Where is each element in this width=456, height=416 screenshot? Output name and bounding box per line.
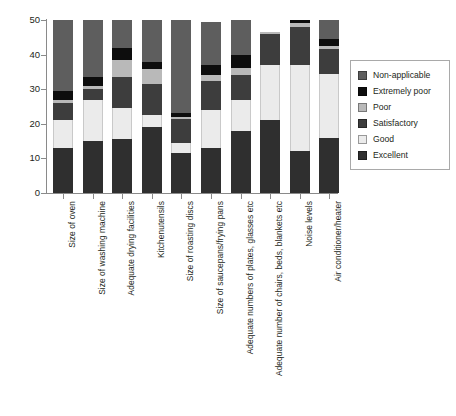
bar[interactable] xyxy=(231,20,251,193)
y-axis-tick-labels: 01020304050 xyxy=(0,0,40,200)
x-axis-label-wrapper: Size of roasting discs xyxy=(185,201,195,281)
bar-segment[interactable] xyxy=(201,65,221,75)
bar-segment[interactable] xyxy=(142,69,162,84)
bar-segment[interactable] xyxy=(201,110,221,148)
x-axis-tick xyxy=(241,194,242,199)
bar-segment[interactable] xyxy=(53,103,73,120)
legend-swatch-icon xyxy=(358,119,367,128)
bar-segment[interactable] xyxy=(171,20,191,113)
bar[interactable] xyxy=(201,20,221,193)
bar[interactable] xyxy=(142,20,162,193)
bar[interactable] xyxy=(319,20,339,193)
legend-item-label: Non-applicable xyxy=(373,71,430,80)
bar-segment[interactable] xyxy=(53,91,73,100)
x-axis-tick xyxy=(122,194,123,199)
bar[interactable] xyxy=(290,20,310,193)
bar-segment[interactable] xyxy=(319,49,339,73)
bar-segment[interactable] xyxy=(260,34,280,65)
bar-segment[interactable] xyxy=(231,20,251,55)
bar-segment[interactable] xyxy=(171,119,191,143)
legend-item-label: Extremely poor xyxy=(373,87,431,96)
bar[interactable] xyxy=(171,20,191,193)
y-axis-tick xyxy=(41,124,46,125)
x-axis-tick-label: Adequate number of chairs, beds, blanket… xyxy=(274,201,284,376)
bar[interactable] xyxy=(112,20,132,193)
bar-segment[interactable] xyxy=(319,138,339,193)
x-axis-label-wrapper: Noise levels xyxy=(304,201,314,247)
x-axis-label-wrapper: Size of washing machine xyxy=(97,201,107,295)
bar-segment[interactable] xyxy=(201,81,221,110)
x-axis-tick-label: Size of saucepans/frying pans xyxy=(215,201,225,314)
bar-segment[interactable] xyxy=(290,27,310,65)
bar-segment[interactable] xyxy=(171,143,191,153)
bar-segment[interactable] xyxy=(112,108,132,139)
chart-root: 01020304050 Size of ovenSize of washing … xyxy=(0,0,456,416)
x-axis-tick xyxy=(93,194,94,199)
x-axis-label-wrapper: Adequate numbers of plates, glasses etc xyxy=(245,201,255,354)
bar-segment[interactable] xyxy=(112,60,132,77)
bar-segment[interactable] xyxy=(142,62,162,69)
bar-segment[interactable] xyxy=(142,84,162,115)
bar-segment[interactable] xyxy=(231,68,251,75)
bar-segment[interactable] xyxy=(231,75,251,99)
bar-segment[interactable] xyxy=(201,22,221,65)
bar-segment[interactable] xyxy=(53,20,73,91)
y-axis-tick-label: 10 xyxy=(2,153,40,163)
bar-segment[interactable] xyxy=(319,39,339,46)
legend-item[interactable]: Extremely poor xyxy=(358,84,443,98)
bar-segment[interactable] xyxy=(231,55,251,69)
x-axis-tick xyxy=(300,194,301,199)
legend-item-label: Good xyxy=(373,135,394,144)
bar-segment[interactable] xyxy=(83,20,103,77)
bar-segment[interactable] xyxy=(112,139,132,193)
bar-segment[interactable] xyxy=(112,77,132,108)
bar[interactable] xyxy=(83,20,103,193)
bar-segment[interactable] xyxy=(53,148,73,193)
x-axis-tick xyxy=(152,194,153,199)
bar-segment[interactable] xyxy=(112,48,132,60)
bar-segment[interactable] xyxy=(83,100,103,142)
bar-segment[interactable] xyxy=(260,120,280,193)
legend-swatch-icon xyxy=(358,135,367,144)
x-axis-label-wrapper: Size of saucepans/frying pans xyxy=(215,201,225,314)
legend-item[interactable]: Excellent xyxy=(358,148,443,162)
bar-segment[interactable] xyxy=(201,148,221,193)
x-axis-label-wrapper: Adequate drying facilities xyxy=(126,201,136,295)
bar[interactable] xyxy=(53,20,73,193)
bar-segment[interactable] xyxy=(231,131,251,193)
y-axis-tick-label: 40 xyxy=(2,50,40,60)
x-axis-tick-label: Noise levels xyxy=(304,201,314,247)
bar-segment[interactable] xyxy=(319,74,339,138)
x-axis-tick-label: Size of roasting discs xyxy=(185,201,195,281)
y-axis-tick xyxy=(41,158,46,159)
x-axis-label-wrapper: Air conditioner/heater xyxy=(333,201,343,282)
bar-segment[interactable] xyxy=(290,65,310,152)
bar-segment[interactable] xyxy=(112,20,132,48)
legend-item[interactable]: Good xyxy=(358,132,443,146)
legend-item-label: Poor xyxy=(373,103,391,112)
x-axis-label-wrapper: Adequate number of chairs, beds, blanket… xyxy=(274,201,284,376)
bar-segment[interactable] xyxy=(171,153,191,193)
bar-segment[interactable] xyxy=(231,100,251,131)
x-axis-tick xyxy=(211,194,212,199)
x-axis-tick-label: Air conditioner/heater xyxy=(333,201,343,282)
bar-segment[interactable] xyxy=(83,141,103,193)
legend-item[interactable]: Poor xyxy=(358,100,443,114)
bar-segment[interactable] xyxy=(83,89,103,99)
bar-segment[interactable] xyxy=(260,65,280,120)
bar-segment[interactable] xyxy=(142,127,162,193)
legend-item[interactable]: Non-applicable xyxy=(358,68,443,82)
y-axis-tick xyxy=(41,55,46,56)
legend-item-label: Satisfactory xyxy=(373,119,418,128)
x-axis-tick-labels: Size of ovenSize of washing machineAdequ… xyxy=(0,193,340,413)
legend-item[interactable]: Satisfactory xyxy=(358,116,443,130)
x-axis-tick-label: Size of washing machine xyxy=(97,201,107,295)
bar-segment[interactable] xyxy=(53,120,73,148)
bar[interactable] xyxy=(260,20,280,193)
bar-segment[interactable] xyxy=(319,20,339,39)
bar-segment[interactable] xyxy=(290,151,310,193)
x-axis-tick xyxy=(181,194,182,199)
bar-segment[interactable] xyxy=(142,20,162,62)
bar-segment[interactable] xyxy=(83,77,103,86)
bar-segment[interactable] xyxy=(142,115,162,127)
